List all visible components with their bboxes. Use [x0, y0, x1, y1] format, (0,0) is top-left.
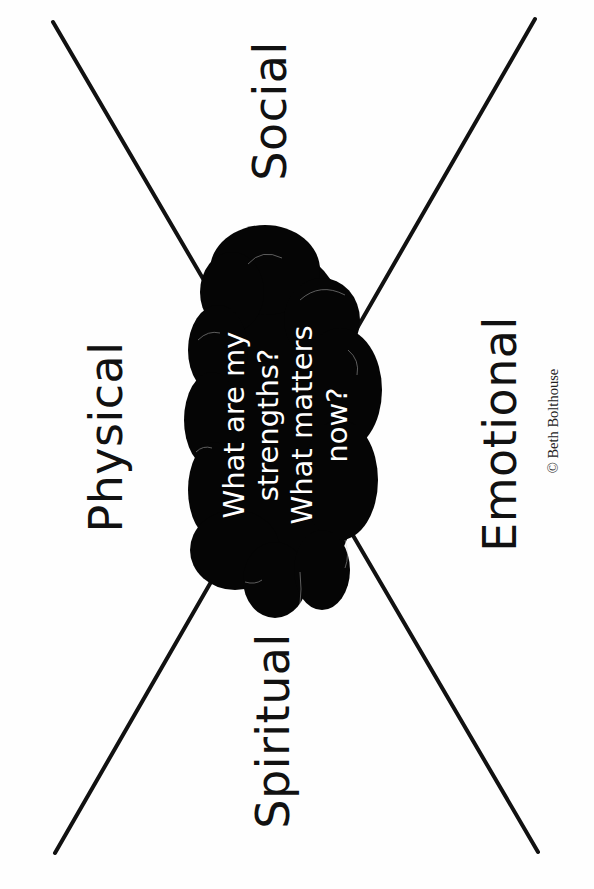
worksheet-canvas: Social Physical Spiritual Emotional What…	[0, 0, 594, 889]
quadrant-label-physical: Physical	[83, 341, 129, 532]
cloud-text-line-4: now?	[319, 325, 353, 524]
quadrant-label-social: Social	[247, 41, 293, 180]
quadrant-label-emotional: Emotional	[477, 316, 523, 552]
copyright-text: © Beth Bolthouse	[546, 369, 561, 473]
quadrant-label-spiritual: Spiritual	[250, 633, 296, 829]
center-cloud-text: What are my strengths? What matters now?	[217, 325, 354, 524]
cloud-text-line-2: strengths?	[251, 325, 285, 524]
cloud-text-line-3: What matters	[285, 325, 319, 524]
cloud-text-line-1: What are my	[217, 325, 251, 524]
